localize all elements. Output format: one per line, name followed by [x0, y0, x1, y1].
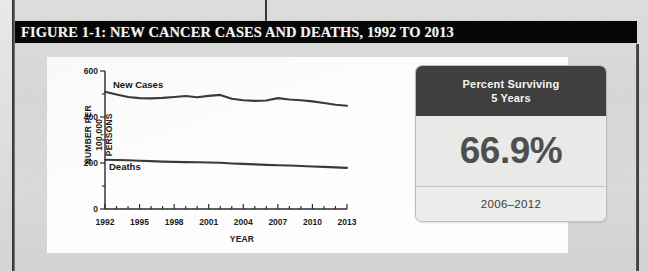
series-line-new-cases [105, 92, 347, 106]
x-tick-label: 2010 [300, 217, 324, 227]
figure-title-bar: FIGURE 1-1: NEW CANCER CASES AND DEATHS,… [15, 21, 637, 43]
x-axis-title: YEAR [147, 234, 337, 244]
percent-surviving-title-line2: 5 Years [491, 91, 531, 105]
x-tick-label: 2001 [197, 217, 221, 227]
series-label-new-cases: New Cases [113, 79, 163, 90]
x-tick-label: 1995 [128, 217, 152, 227]
y-tick-label: 200 [84, 158, 98, 168]
y-tick-label: 600 [84, 66, 98, 76]
series-label-deaths: Deaths [109, 161, 141, 172]
y-tick-label: 400 [84, 112, 98, 122]
x-tick-label: 2013 [335, 217, 359, 227]
percent-surviving-card: Percent Surviving 5 Years 66.9% 2006–201… [415, 65, 607, 222]
x-tick-label: 2007 [266, 217, 290, 227]
page-edge-line-right [636, 44, 639, 271]
x-tick-label: 1992 [93, 217, 117, 227]
series-line-deaths [105, 160, 347, 168]
percent-surviving-title-line1: Percent Surviving [463, 77, 560, 91]
y-tick-label: 0 [93, 204, 98, 214]
x-tick-label: 1998 [162, 217, 186, 227]
percent-surviving-value-area: 66.9% [416, 116, 606, 187]
line-chart: NUMBER PER 100,000 PERSONS YEAR New Case… [47, 57, 377, 253]
percent-surviving-period: 2006–2012 [416, 187, 606, 221]
figure-content-panel: NUMBER PER 100,000 PERSONS YEAR New Case… [47, 57, 568, 253]
page-left-margin [0, 0, 12, 271]
percent-surviving-card-header: Percent Surviving 5 Years [416, 66, 606, 116]
percent-surviving-value: 66.9% [460, 130, 562, 172]
x-axis-ticks [105, 204, 347, 209]
scan-artifact-line [265, 0, 267, 22]
x-tick-label: 2004 [231, 217, 255, 227]
figure-title: FIGURE 1-1: NEW CANCER CASES AND DEATHS,… [15, 24, 454, 41]
